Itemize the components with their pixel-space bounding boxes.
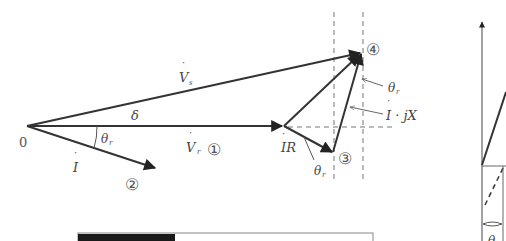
svg-text:r: r [322, 171, 326, 179]
svg-text:I: I [72, 160, 79, 175]
svg-text:r: r [197, 148, 201, 156]
point-1: ① [207, 140, 221, 159]
dashed-slant [485, 168, 503, 205]
svg-text:·: · [74, 147, 77, 158]
right-theta-label: θ [488, 234, 496, 241]
vector-vs [27, 53, 360, 126]
angle-dimension [483, 222, 502, 226]
point-4: ④ [366, 40, 380, 59]
label-vr: V · r [186, 127, 201, 156]
label-theta-r-top: θ r [388, 81, 400, 96]
point-2: ② [125, 175, 139, 194]
label-delta: δ [131, 108, 139, 123]
vector-ijx [333, 54, 361, 152]
svg-text:I · jX: I · jX [385, 108, 418, 123]
ijx-leader [350, 107, 383, 114]
origin-label: 0 [19, 135, 27, 150]
slanted-line [482, 92, 506, 165]
label-i: I · [72, 147, 79, 175]
svg-text:θ: θ [101, 132, 109, 146]
right-fragment: θ [482, 22, 506, 241]
vector-i [27, 126, 155, 168]
svg-text:V: V [186, 140, 197, 155]
svg-text:θ: θ [388, 81, 396, 95]
phasor-diagram: 0 V · s δ θ r V · r ① I · ② IR · θ r ③ ④… [0, 0, 506, 241]
svg-text:s: s [189, 79, 193, 87]
vector-drop [284, 55, 359, 126]
svg-text:r: r [396, 88, 400, 96]
bar-fill [78, 234, 175, 241]
label-theta-r-ir: θ r [314, 164, 326, 179]
svg-text:·: · [189, 127, 192, 138]
theta-r-top-leader [362, 79, 383, 86]
point-3: ③ [338, 149, 352, 168]
svg-text:·: · [182, 57, 185, 68]
bottom-bar [78, 233, 373, 241]
label-ijx: I · jX · [385, 95, 418, 123]
svg-text:·: · [282, 128, 285, 139]
svg-text:r: r [109, 139, 113, 147]
theta-r-arc [94, 126, 97, 148]
label-vs: V · s [179, 57, 193, 87]
label-theta-r: θ r [101, 132, 113, 147]
svg-text:θ: θ [314, 164, 322, 178]
svg-text:·: · [387, 95, 390, 106]
svg-text:IR: IR [280, 140, 296, 155]
